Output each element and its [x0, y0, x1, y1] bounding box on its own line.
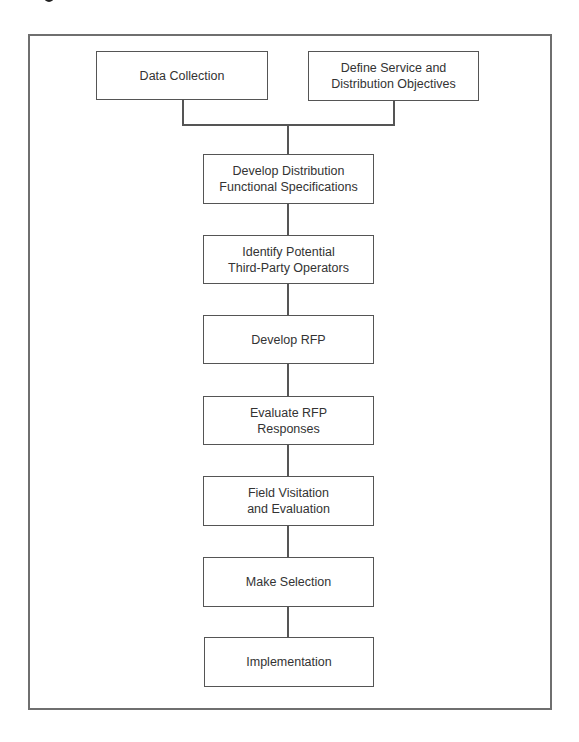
box-field-visitation: Field Visitation and Evaluation — [203, 476, 374, 526]
box-label: Identify Potential Third-Party Operators — [228, 244, 349, 276]
box-functional-specs: Develop Distribution Functional Specific… — [203, 154, 374, 204]
connector-specs-to-operators — [287, 204, 289, 235]
box-identify-operators: Identify Potential Third-Party Operators — [203, 235, 374, 284]
box-develop-rfp: Develop RFP — [203, 315, 374, 364]
box-label: Make Selection — [246, 574, 331, 590]
box-make-selection: Make Selection — [203, 557, 374, 607]
connector-merge-to-specs — [287, 124, 289, 155]
box-implementation: Implementation — [204, 637, 374, 687]
box-label: Develop Distribution Functional Specific… — [219, 163, 357, 195]
connector-objectives-down — [393, 101, 395, 125]
box-evaluate-rfp: Evaluate RFP Responses — [203, 396, 374, 445]
box-label: Implementation — [246, 654, 331, 670]
box-label: Develop RFP — [251, 332, 325, 348]
box-label: Evaluate RFP Responses — [250, 405, 327, 437]
connector-data-collection-down — [182, 100, 184, 125]
connector-rfp-to-evaluate — [287, 364, 289, 396]
box-label: Define Service and Distribution Objectiv… — [331, 60, 455, 92]
connector-operators-to-rfp — [287, 284, 289, 315]
connector-evaluate-to-field — [287, 445, 289, 476]
box-label: Data Collection — [140, 68, 225, 84]
box-data-collection: Data Collection — [96, 51, 268, 100]
box-define-objectives: Define Service and Distribution Objectiv… — [308, 51, 479, 101]
connector-selection-to-implementation — [287, 607, 289, 637]
diagram-frame — [28, 34, 552, 710]
connector-field-to-selection — [287, 526, 289, 557]
cropped-figure-caption-fragment — [44, 0, 54, 2]
box-label: Field Visitation and Evaluation — [247, 485, 330, 517]
